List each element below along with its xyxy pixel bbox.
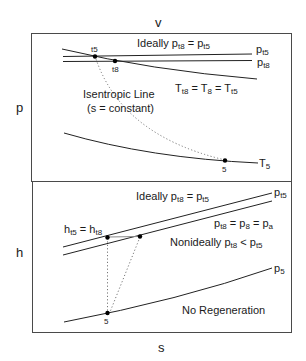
no-regeneration-label: No Regeneration <box>182 304 265 316</box>
t5-isotherm-curve <box>64 133 258 163</box>
isentropic-line-sublabel: (s = constant) <box>87 102 154 114</box>
temperature-equality-annotation: Tt8 = T8 = Tt5 <box>175 82 238 96</box>
point-ht5 <box>105 235 109 239</box>
pt5-label-pv: pt5 <box>256 43 269 57</box>
point-5-hs <box>105 311 109 315</box>
p5-label-hs: p5 <box>274 262 285 276</box>
point-5-pv <box>223 158 227 162</box>
h-axis-label: h <box>16 245 23 260</box>
p-axis-label: p <box>16 100 23 115</box>
ideal-annotation-hs: Ideally pt8 = pt5 <box>136 190 210 204</box>
point-t5 <box>93 54 97 58</box>
label-5-pv: 5 <box>222 165 227 174</box>
pressure-equality-annotation: pt8 = p8 = pa <box>214 217 274 231</box>
v-axis-label: v <box>155 15 162 30</box>
pv-panel-frame <box>32 34 292 182</box>
label-5-hs: 5 <box>104 317 109 326</box>
label-t8: t8 <box>112 65 119 74</box>
ideal-annotation-pv: Ideally pt8 = pt5 <box>137 37 211 51</box>
nonideal-annotation: Nonideally pt8 < pt5 <box>170 236 263 250</box>
s-axis-label: s <box>158 340 165 355</box>
label-t5: t5 <box>91 45 98 54</box>
pt8-isobar-line <box>63 61 252 62</box>
point-ht8 <box>138 234 142 238</box>
point-t8 <box>113 59 117 63</box>
enthalpy-equality-annotation: ht5 = ht8 <box>64 223 103 237</box>
pt5-label-hs: pt5 <box>274 186 287 200</box>
thermo-diagram: v p h s t5 t8 5 Ideally pt8 = pt5 pt5 pt… <box>0 0 306 361</box>
pt8-label-pv: pt8 <box>257 56 270 70</box>
isentrope-dotted-nonideal <box>110 237 140 312</box>
isentropic-line-label: Isentropic Line <box>83 88 155 100</box>
enthalpy-connector <box>108 237 139 238</box>
t5-curve-label: T5 <box>259 157 271 171</box>
